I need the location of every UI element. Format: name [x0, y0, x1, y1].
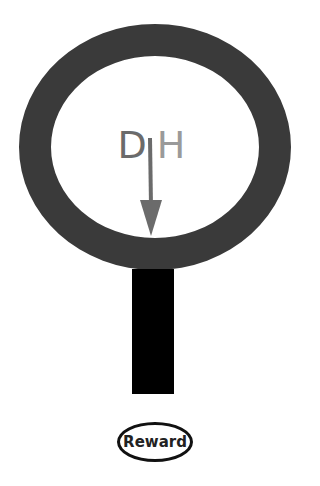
down-arrow-icon — [136, 138, 166, 238]
reward-ellipse: Reward — [117, 422, 193, 462]
stem-bar — [132, 269, 174, 394]
reward-label: Reward — [123, 433, 187, 451]
